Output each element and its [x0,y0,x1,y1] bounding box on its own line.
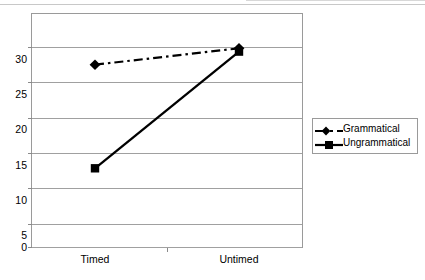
line-chart: 30 25 20 15 10 5 0 Timed Untimed [0,0,425,280]
legend-key-grammatical-icon [315,123,343,135]
plot-area [31,13,303,248]
y-axis-tick-label: 25 [1,89,27,100]
legend-item-ungrammatical: Ungrammatical [315,136,414,150]
y-tick-25 [28,82,32,83]
x-axis-category-timed: Timed [55,254,135,265]
x-tick-midpoint [167,248,168,252]
legend-item-grammatical: Grammatical [315,122,414,136]
y-tick-10 [28,188,32,189]
y-tick-0 [28,247,32,248]
y-axis-tick-label: 15 [1,160,27,171]
y-tick-20 [28,118,32,119]
legend-label-grammatical: Grammatical [343,123,400,135]
y-axis-tick-label: 20 [1,124,27,135]
gridline-25 [32,82,302,83]
gridline-5 [32,224,302,225]
x-axis-category-untimed: Untimed [199,254,279,265]
y-tick-15 [28,153,32,154]
legend-key-ungrammatical-icon [315,137,343,149]
gridline-10 [32,188,302,189]
chart-legend: Grammatical Ungrammatical [312,118,418,154]
gridline-30 [32,47,302,48]
y-tick-5 [28,224,32,225]
y-axis-tick-label: 30 [1,54,27,65]
y-axis: 30 25 20 15 10 5 0 [0,13,27,248]
y-axis-tick-label: 10 [1,195,27,206]
gridline-20 [32,118,302,119]
y-axis-tick-label: 0 [1,242,27,253]
y-tick-30 [28,47,32,48]
legend-label-ungrammatical: Ungrammatical [343,137,410,149]
y-axis-tick-label: 5 [1,230,27,241]
gridline-15 [32,153,302,154]
